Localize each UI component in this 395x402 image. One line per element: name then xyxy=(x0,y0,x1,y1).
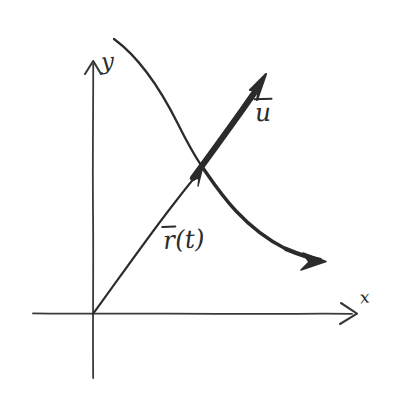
sketch-drawing xyxy=(0,0,395,402)
diagram-canvas: y x u r(t) xyxy=(0,0,395,402)
x-axis-label-text: x xyxy=(359,287,371,308)
x-axis xyxy=(33,303,357,324)
position-vector-label-symbol: r xyxy=(162,227,175,253)
trajectory-curve xyxy=(114,39,326,270)
y-axis xyxy=(85,61,101,378)
position-vector-label-argument: (t) xyxy=(174,224,205,255)
curve-arrowhead xyxy=(301,253,326,270)
x-axis-label: x xyxy=(359,289,370,307)
y-axis-label-text: y xyxy=(100,48,115,75)
tangent-vector-label: u xyxy=(255,100,272,126)
tangent-vector-label-text: u xyxy=(255,100,272,126)
y-axis-label: y xyxy=(100,50,115,74)
position-vector-label: r(t) xyxy=(162,226,205,253)
